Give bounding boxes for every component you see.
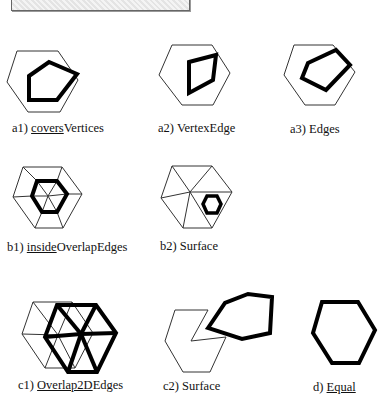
label-b2: b2) Surface [160,239,218,253]
label-c2: c2) Surface [163,379,220,393]
label-text: Surface [182,379,220,393]
label-a2: a2) VertexEdge [158,121,235,135]
label-text: OverlapEdges [57,240,128,254]
label-underlined: covers [31,121,64,135]
label-a1: a1) coversVertices [12,121,104,135]
label-prefix: a1) [12,121,31,135]
panel-a2-shapes [159,45,230,105]
object-small-hexagon [203,196,221,213]
label-prefix: d) [313,380,327,394]
label-text: Edges [309,122,340,136]
region-hexagon [7,51,78,112]
label-b1: b1) insideOverlapEdges [7,240,127,254]
label-text: Vertices [64,121,104,135]
triangulation-lines [13,167,82,228]
label-text: Edges [93,378,124,392]
region-hexagon [284,45,355,105]
panel-c2-shapes [165,294,272,372]
label-prefix: c2) [163,379,182,393]
label-a3: a3) Edges [290,122,340,136]
label-text: VertexEdge [177,121,235,135]
triangulation-lines [161,166,232,228]
panel-d-shapes [313,302,375,363]
label-underlined: Overlap2D [37,378,93,392]
label-prefix: a2) [158,121,177,135]
label-prefix: b1) [7,240,27,254]
diagram-canvas [0,0,386,396]
panel-b2-shapes [161,166,232,228]
label-underlined: Equal [327,380,356,394]
panel-a1-shapes [7,51,78,112]
object-pentagon [302,50,350,90]
label-prefix: b2) [160,239,180,253]
panel-a3-shapes [284,45,355,105]
label-underlined: inside [27,240,57,254]
region-notched-hexagon [165,310,226,372]
panel-c1-shapes [22,302,116,372]
label-c1: c1) Overlap2DEdges [18,378,123,392]
label-text: Surface [180,239,218,253]
region-hexagon [161,166,232,228]
object-quadrilateral [189,55,216,93]
panel-b1-shapes [13,167,82,228]
object-hexagon [208,294,272,339]
label-d: d) Equal [313,380,356,394]
label-prefix: c1) [18,378,37,392]
label-prefix: a3) [290,122,309,136]
region-hexagon [159,45,230,105]
equal-hexagon [313,302,375,363]
